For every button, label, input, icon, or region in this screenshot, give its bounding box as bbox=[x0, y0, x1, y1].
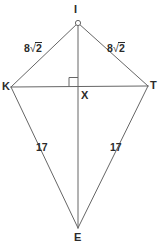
apex-point-marker-icon bbox=[75, 20, 80, 25]
vertex-label-X: X bbox=[81, 90, 88, 101]
vertex-label-K: K bbox=[2, 81, 10, 92]
vertex-label-E: E bbox=[74, 232, 81, 243]
side-label-IT: 8√2 bbox=[107, 42, 125, 54]
radical-expression: 8√2 bbox=[24, 42, 42, 54]
edge-KE bbox=[11, 87, 78, 228]
geometry-diagram-canvas: I K T E X 8√2 8√2 17 17 bbox=[0, 0, 159, 251]
side-label-TE: 17 bbox=[110, 142, 122, 153]
side-label-KE: 17 bbox=[36, 142, 48, 153]
right-angle-square-icon bbox=[69, 78, 78, 87]
radicand: 2 bbox=[35, 42, 42, 54]
radicand: 2 bbox=[118, 42, 125, 54]
vertex-label-I: I bbox=[74, 4, 77, 15]
kite-figure bbox=[0, 0, 159, 251]
diagonal-KT bbox=[11, 86, 148, 87]
edge-KI bbox=[11, 23, 78, 87]
radical-expression: 8√2 bbox=[107, 42, 125, 54]
edge-IT bbox=[78, 23, 148, 86]
side-label-KI: 8√2 bbox=[24, 42, 42, 54]
vertex-label-T: T bbox=[150, 80, 157, 91]
edge-TE bbox=[78, 86, 148, 228]
